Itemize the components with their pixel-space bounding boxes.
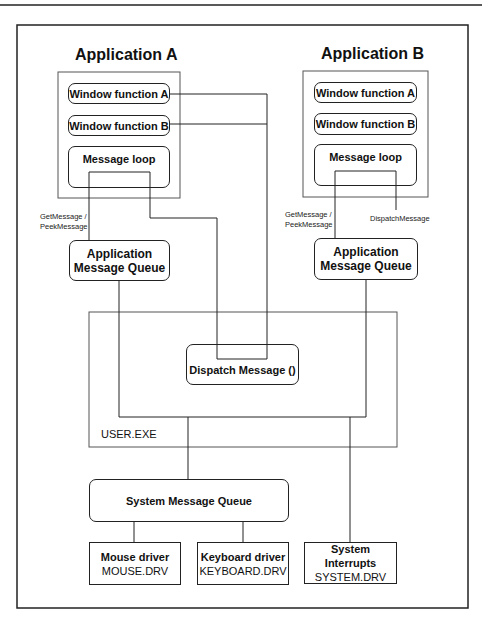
- app-a-message-loop: Message loop: [68, 146, 170, 188]
- system-message-queue: System Message Queue: [89, 479, 289, 522]
- app-b-message-loop: Message loop: [314, 144, 417, 186]
- app-a-message-loop-label: Message loop: [83, 152, 156, 166]
- app-a-title: Application A: [75, 46, 178, 64]
- app-b-getmessage-label: GetMessage / PeekMessage: [285, 210, 333, 230]
- app-b-window-function-b: Window function B: [314, 113, 417, 135]
- system-interrupts-box: System Interrupts SYSTEM.DRV: [304, 542, 397, 584]
- app-b-message-loop-label: Message loop: [329, 150, 402, 164]
- dispatch-message-box: Dispatch Message (): [186, 344, 299, 385]
- app-b-window-function-a: Window function A: [314, 82, 417, 103]
- mouse-driver-box: Mouse driver MOUSE.DRV: [89, 542, 181, 585]
- user-exe-label: USER.EXE: [101, 428, 157, 440]
- app-b-dispatchmessage-label: DispatchMessage: [370, 214, 430, 224]
- keyboard-driver-box: Keyboard driver KEYBOARD.DRV: [197, 542, 289, 585]
- app-a-message-queue: Application Message Queue: [69, 240, 170, 281]
- app-b-title: Application B: [321, 45, 424, 63]
- app-b-message-queue: Application Message Queue: [314, 238, 418, 280]
- app-a-window-function-b: Window function B: [68, 115, 170, 136]
- app-a-window-function-a: Window function A: [68, 83, 170, 104]
- app-a-getmessage-label: GetMessage / PeekMessage: [40, 212, 88, 232]
